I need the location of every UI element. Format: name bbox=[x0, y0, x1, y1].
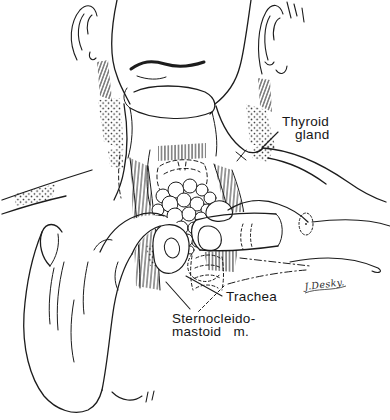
patient-neck bbox=[114, 104, 263, 290]
label-thyroid-gland-line2: gland bbox=[295, 127, 330, 142]
leader-line-trachea bbox=[186, 276, 222, 296]
illustration-canvas: Thyroid gland Trachea Sternocleido- mast… bbox=[0, 0, 390, 420]
left-ear bbox=[71, 6, 97, 60]
guide-dash-dot-lines bbox=[228, 258, 310, 284]
underchin-shadow bbox=[158, 143, 206, 161]
leader-line-scm bbox=[166, 282, 190, 309]
right-shoulder bbox=[263, 148, 386, 202]
label-trachea: Trachea bbox=[226, 289, 277, 304]
thyroid-palpation-figure: Thyroid gland Trachea Sternocleido- mast… bbox=[0, 0, 390, 420]
middle-fingertip bbox=[206, 201, 233, 221]
finger-shadow bbox=[204, 250, 238, 272]
right-sideburn-shadow bbox=[258, 78, 272, 112]
examiner-right-hand bbox=[188, 201, 390, 282]
chin bbox=[134, 86, 215, 114]
pressing-fingertip bbox=[153, 225, 189, 274]
examiner-left-hand bbox=[24, 213, 189, 413]
left-sideburn-shadow bbox=[97, 60, 112, 100]
mouth bbox=[131, 62, 204, 69]
patient-lower-face bbox=[71, 0, 304, 114]
label-scm-line2: mastoid m. bbox=[172, 324, 249, 339]
right-ear bbox=[259, 2, 304, 74]
hair-strokes bbox=[287, 2, 304, 22]
